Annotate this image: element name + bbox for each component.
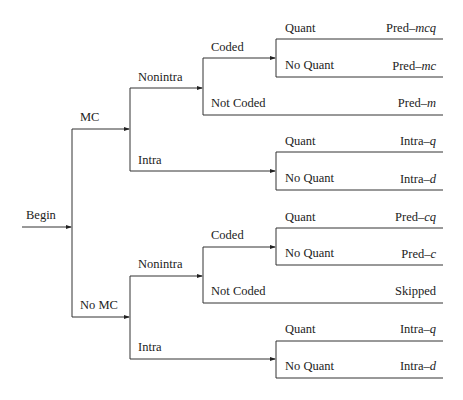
outcome-pred-mc: Pred–mc (392, 59, 436, 73)
node-nomc-intra: Intra (138, 340, 162, 354)
node-nomc-coded: Coded (211, 228, 244, 242)
outcome-pred-m: Pred–m (398, 96, 436, 110)
node-b3-quant: Quant (285, 210, 316, 224)
node-nomc-not-coded: Not Coded (211, 284, 266, 298)
outcome-pred-cq: Pred–cq (395, 210, 436, 224)
node-b2-quant: Quant (285, 134, 316, 148)
node-no-mc: No MC (80, 298, 118, 312)
node-mc-nonintra: Nonintra (138, 70, 182, 84)
node-b2-noquant: No Quant (285, 171, 334, 185)
outcome-intra-q-lower: Intra–q (400, 322, 436, 336)
node-b1-noquant: No Quant (285, 58, 334, 72)
node-mc-intra: Intra (138, 153, 162, 167)
node-mc-coded: Coded (211, 40, 244, 54)
outcome-skipped: Skipped (395, 284, 436, 298)
node-b3-noquant: No Quant (285, 246, 334, 260)
node-begin: Begin (26, 208, 56, 222)
node-nomc-nonintra: Nonintra (138, 257, 182, 271)
node-b4-noquant: No Quant (285, 359, 334, 373)
outcome-pred-mcq: Pred–mcq (386, 21, 436, 35)
node-mc-not-coded: Not Coded (211, 96, 266, 110)
node-mc: MC (80, 110, 99, 124)
outcome-intra-q-upper: Intra–q (400, 134, 436, 148)
node-b1-quant: Quant (285, 21, 316, 35)
outcome-intra-d-upper: Intra–d (400, 172, 436, 186)
node-b4-quant: Quant (285, 322, 316, 336)
outcome-intra-d-lower: Intra–d (400, 359, 436, 373)
outcome-pred-c: Pred–c (401, 247, 436, 261)
